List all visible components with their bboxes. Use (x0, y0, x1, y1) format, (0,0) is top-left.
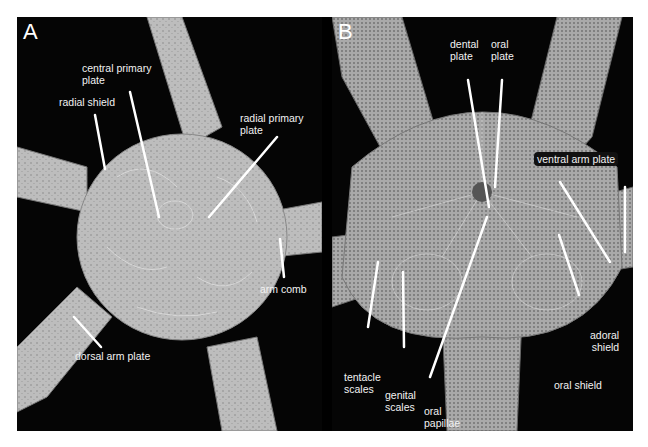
label-radial-shield: radial shield (59, 96, 115, 108)
disc (77, 134, 287, 340)
arm-top (147, 17, 222, 147)
panel-letter-a: A (23, 21, 38, 43)
arm-left (17, 147, 87, 212)
label-dental-plate: dental plate (450, 38, 479, 62)
label-oral-papillae: oral papillae (424, 405, 460, 429)
specimen-ventral-view (332, 17, 633, 431)
label-adoral-shield: adoral shield (590, 329, 619, 353)
panel-letter-b: B (338, 21, 353, 43)
leader-radial-shield (95, 115, 105, 169)
figure: A central primary plate radial shield ra… (17, 17, 633, 431)
mouth (472, 182, 492, 202)
leader-genital-scales (403, 272, 404, 347)
arm-bottom-right (207, 337, 277, 431)
label-genital-scales: genital scales (385, 389, 416, 413)
specimen-dorsal-view (17, 17, 322, 431)
label-arm-comb: arm comb (260, 283, 307, 295)
label-dorsal-arm-plate: dorsal arm plate (75, 350, 150, 362)
label-central-primary-plate: central primary plate (82, 62, 151, 86)
label-tentacle-scales: tentacle scales (344, 371, 381, 395)
label-oral-shield: oral shield (554, 379, 602, 391)
panel-a: A central primary plate radial shield ra… (17, 17, 322, 431)
label-oral-plate: oral plate (491, 38, 514, 62)
label-ventral-arm-plate: ventral arm plate (534, 152, 618, 166)
panel-b: B dental plate oral plate ventral arm pl… (332, 17, 633, 431)
label-radial-primary-plate: radial primary plate (240, 112, 304, 136)
